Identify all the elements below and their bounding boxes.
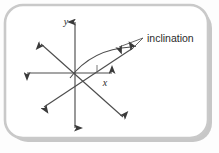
y-axis-label: y xyxy=(63,16,69,27)
inclination-diagram: y x inclination xyxy=(0,0,219,153)
x-axis-label: x xyxy=(102,77,108,88)
inclination-label: inclination xyxy=(147,32,194,44)
frame-fill xyxy=(5,5,208,138)
figure-container: y x inclination xyxy=(0,0,219,153)
